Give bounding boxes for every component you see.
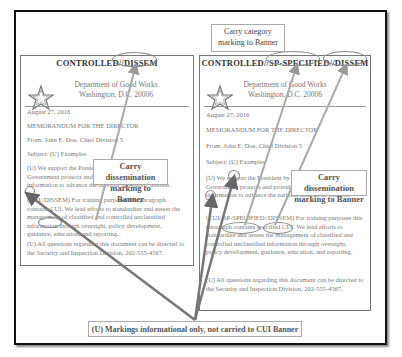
highlight-left-banner-dissem [112,52,157,67]
right-paragraph-2: (CUI//SP-SPECIFIED//DISSEM) For training… [206,214,364,257]
callout-carry-dissem-left: Carry dissemination marking to Banner [93,159,168,185]
highlight-left-para1-u [25,186,35,196]
right-paragraph-3: (U) All questions regarding this documen… [206,276,364,293]
left-banner-marking: CONTROLLED//DISSEM [21,58,193,68]
right-dept-header: Department of Good Works Washington, D.C… [240,80,330,100]
highlight-right-para2-dissem [263,222,293,234]
highlight-right-subject-u [228,170,240,181]
left-paragraph-3: (U) All questions regarding this documen… [27,240,187,257]
right-subject-line: Subject: (U) Examples [206,158,364,167]
callout-carry-dissem-right: Carry dissemination marking to Banner [291,170,367,196]
highlight-right-banner-sp-specified [266,51,320,66]
highlight-right-banner-dissem [323,51,367,66]
right-from-line: From: John E. Doe, Chief Division 5 [206,142,364,151]
left-header-rule [25,106,189,107]
left-date: August 27, 2016 [27,108,187,117]
right-header-rule [204,106,366,107]
callout-informational-only: (U) Markings informational only, not car… [88,321,302,337]
highlight-right-para2-sp-specified [222,222,260,234]
right-date: August 27, 2016 [206,111,364,120]
left-memo-line: MEMORANDUM FOR THE DIRECTOR [27,122,187,131]
left-dept-header: Department of Good Works Washington, D.C… [71,80,161,100]
callout-carry-category: Carry category marking to Banner [211,24,285,52]
highlight-right-para1-u [205,190,216,201]
right-memo-line: MEMORANDUM FOR THE DIRECTOR [206,126,364,135]
left-from-line: From: John E. Doe, Chief Division 5 [27,136,187,145]
star-seal-icon [206,84,234,112]
left-subject-line: Subject: (U) Examples [27,150,187,159]
highlight-left-para2-dissem [38,217,62,228]
